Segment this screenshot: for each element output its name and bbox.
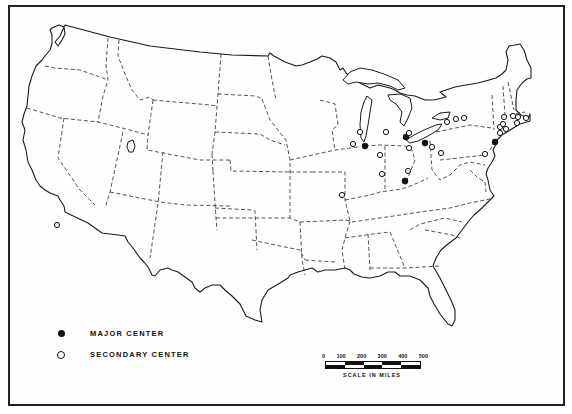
lake-huron [388,94,412,126]
scale-ticks: 0 100 200 300 400 500 [322,353,428,359]
secondary-center-dot [377,152,382,157]
secondary-center-dot [429,144,434,149]
scale-tick: 200 [357,353,366,359]
secondary-center-dot [339,192,344,197]
secondary-center-dot [461,115,466,120]
secondary-centers [54,113,528,227]
great-salt-lake [127,140,135,152]
secondary-center-dot [453,116,458,121]
open-circle-icon [57,351,65,359]
secondary-center-dot [501,114,506,119]
scale-tick: 400 [398,353,407,359]
legend-label: MAJOR CENTER [90,329,164,338]
secondary-center-dot [444,119,449,124]
secondary-center-dot [379,171,384,176]
state-borders [27,38,525,275]
secondary-center-dot [405,168,410,173]
secondary-center-dot [510,113,515,118]
secondary-center-dot [350,141,355,146]
secondary-center-dot [357,129,362,134]
secondary-center-dot [500,121,505,126]
scale-tick: 100 [336,353,345,359]
secondary-center-dot [406,145,411,150]
us-outline [22,25,531,326]
legend: MAJOR CENTER SECONDARY CENTER [46,323,190,365]
secondary-center-dot [523,115,528,120]
major-center-dot [362,143,368,149]
scale-tick: 0 [322,353,325,359]
secondary-center-dot [438,150,443,155]
scale-tick: 300 [378,353,387,359]
secondary-center-dot [54,222,59,227]
secondary-center-dot [406,130,411,135]
lake-michigan [360,96,372,142]
scale-bar-graphic [325,361,421,369]
legend-item-secondary: SECONDARY CENTER [46,344,190,365]
lake-ontario [432,112,450,120]
scale-bar: 0 100 200 300 400 500 SCALE IN MILES [325,353,425,378]
secondary-center-dot [514,120,519,125]
major-center-dot [402,178,408,184]
major-center-dot [492,139,498,145]
major-center-dot [422,140,428,146]
secondary-center-dot [503,126,508,131]
legend-label: SECONDARY CENTER [90,350,190,359]
secondary-center-dot [515,114,520,119]
scale-caption: SCALE IN MILES [325,372,419,378]
scale-tick: 500 [419,353,428,359]
filled-circle-icon [58,330,65,337]
secondary-center-dot [497,130,502,135]
legend-item-major: MAJOR CENTER [46,323,190,344]
secondary-center-dot [482,151,487,156]
secondary-center-dot [383,129,388,134]
